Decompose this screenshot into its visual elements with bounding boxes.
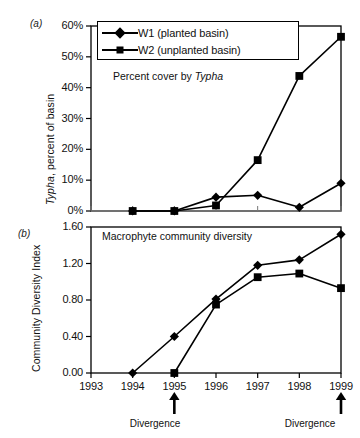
panel-b-y-tick-label-3: 1.20: [39, 257, 83, 269]
panel-a-y-tick-label-2: 20%: [39, 142, 83, 154]
divergence-arrow-1995: [169, 392, 179, 414]
data-point-marker-square: [170, 369, 178, 377]
legend: W1 (planted basin) W2 (unplanted basin): [97, 21, 299, 60]
legend-entry-w2: W2 (unplanted basin): [98, 41, 241, 59]
data-point-marker-diamond: [253, 191, 262, 200]
divergence-arrow-1999: [336, 392, 346, 414]
panel-b-tag: (b): [18, 228, 30, 239]
data-point-marker-square: [212, 202, 220, 210]
data-point-marker-diamond: [336, 179, 345, 188]
divergence-label-1999: Divergence: [272, 418, 348, 429]
legend-label-w1: W1 (planted basin): [138, 27, 229, 39]
data-point-marker-square: [337, 284, 345, 292]
data-point-marker-square: [212, 301, 220, 309]
legend-marker-diamond-icon: [102, 26, 138, 40]
divergence-label-1995: Divergence: [117, 418, 193, 429]
figure-container: (a) (b) Typha, percent of basin Communit…: [0, 0, 360, 438]
panel-b-series-w2: [170, 270, 344, 377]
panel-a-annotation: Percent cover by Typha: [113, 70, 223, 82]
panel-a-y-tick-label-5: 50%: [39, 50, 83, 62]
panel-a-y-tick-label-6: 60%: [39, 19, 83, 31]
panel-a-annotation-plain: Percent cover by: [113, 70, 195, 82]
panel-a-annotation-italic: Typha: [195, 70, 223, 82]
x-tick-label-1993: 1993: [71, 380, 111, 392]
panel-a-series-w1: [128, 179, 346, 216]
panel-b-y-tick-label-1: 0.40: [39, 330, 83, 342]
panel-b-series-w1: [128, 230, 346, 378]
data-point-marker-square: [254, 273, 262, 281]
data-point-marker-square: [295, 72, 303, 80]
x-tick-label-1994: 1994: [113, 380, 153, 392]
panel-b-y-ticks: [86, 227, 91, 373]
panel-b-y-tick-label-2: 0.80: [39, 293, 83, 305]
data-point-marker-square: [337, 33, 345, 41]
y-axis-label-rest: , percent of basin: [44, 94, 56, 176]
panel-b-annotation: Macrophyte community diversity: [102, 230, 252, 242]
panel-b-x-ticks: [91, 373, 341, 378]
x-tick-label-1998: 1998: [279, 380, 319, 392]
x-tick-label-1999: 1999: [321, 380, 360, 392]
panel-b-y-tick-label-4: 1.60: [39, 220, 83, 232]
panel-a-y-tick-label-1: 10%: [39, 173, 83, 185]
panel-a-series-w2: [129, 33, 345, 215]
legend-label-w2: W2 (unplanted basin): [138, 44, 241, 56]
data-point-marker-square: [254, 156, 262, 164]
x-tick-label-1995: 1995: [154, 380, 194, 392]
x-tick-label-1997: 1997: [238, 380, 278, 392]
data-point-marker-diamond: [295, 255, 304, 264]
data-point-marker-diamond: [211, 193, 220, 202]
panel-a-y-tick-label-0: 0%: [39, 204, 83, 216]
x-tick-label-1996: 1996: [196, 380, 236, 392]
data-point-marker-square: [129, 207, 137, 215]
data-point-marker-square: [170, 207, 178, 215]
panel-a-y-tick-label-3: 30%: [39, 112, 83, 124]
legend-entry-w1: W1 (planted basin): [98, 24, 229, 42]
panel-a-y-ticks: [86, 26, 91, 211]
data-point-marker-diamond: [336, 230, 345, 239]
panel-a-y-tick-label-4: 40%: [39, 81, 83, 93]
panel-b-y-tick-label-0: 0.00: [39, 366, 83, 378]
data-point-marker-square: [295, 270, 303, 278]
legend-marker-square-icon: [102, 43, 138, 57]
